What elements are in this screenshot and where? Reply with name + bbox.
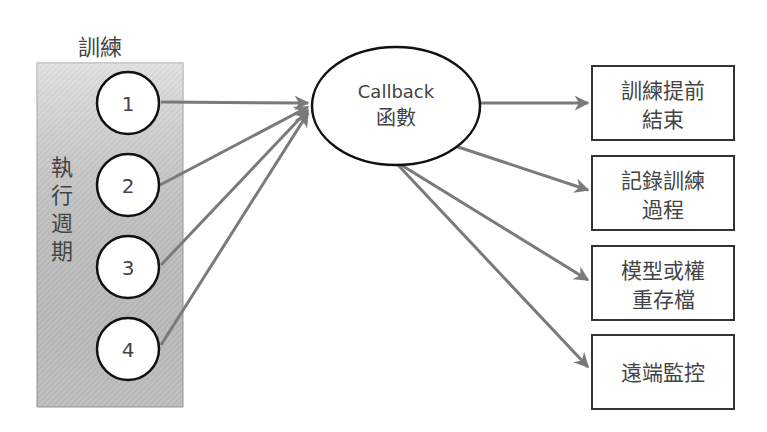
callback-subtitle: 函數	[376, 106, 416, 130]
svg-text:遠端監控: 遠端監控	[621, 361, 705, 385]
output-box-remote-monitor: 遠端監控	[592, 335, 734, 409]
step-node: 3	[97, 236, 159, 298]
svg-text:結束: 結束	[642, 108, 684, 132]
output-box-save-model: 模型或權 重存檔	[592, 246, 734, 320]
step-number: 4	[122, 338, 135, 362]
arrow-callback-to-monitor	[398, 165, 588, 367]
step-number: 1	[122, 92, 135, 116]
step-number: 2	[122, 174, 135, 198]
cycle-label-char: 執	[51, 155, 73, 180]
cycle-label-char: 行	[51, 183, 73, 208]
output-box-early-stop: 訓練提前 結束	[592, 66, 734, 140]
svg-text:記錄訓練: 記錄訓練	[621, 169, 705, 193]
step-node: 2	[97, 154, 159, 216]
step-node: 1	[97, 72, 159, 134]
arrow-step1-to-callback	[161, 102, 308, 103]
step-node: 4	[97, 318, 159, 380]
callback-node: Callback 函數	[312, 47, 480, 165]
cycle-label-char: 週	[51, 211, 73, 236]
svg-text:模型或權: 模型或權	[621, 259, 705, 283]
svg-text:重存檔: 重存檔	[632, 288, 695, 312]
arrow-callback-to-log	[455, 146, 588, 190]
svg-text:過程: 過程	[642, 198, 684, 222]
callback-title: Callback	[358, 81, 435, 102]
step-number: 3	[122, 256, 135, 280]
output-box-log-training: 記錄訓練 過程	[592, 156, 734, 230]
callback-diagram: 訓練 執 行 週 期 1 2 3 4 Callback 函數	[0, 0, 767, 432]
training-label: 訓練	[78, 35, 122, 60]
cycle-label-char: 期	[51, 239, 73, 264]
svg-text:訓練提前: 訓練提前	[621, 79, 705, 103]
